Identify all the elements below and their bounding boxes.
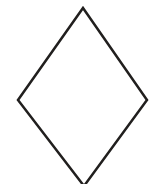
rhombus-figure — [0, 0, 156, 184]
image-canvas — [0, 0, 156, 184]
